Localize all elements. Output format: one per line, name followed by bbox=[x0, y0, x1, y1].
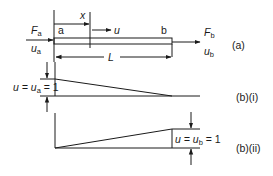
panel-b-ii: u = ub = 1 (b)(ii) bbox=[55, 112, 261, 165]
u-label: u bbox=[114, 24, 120, 36]
panel-b-i-tag: (b)(i) bbox=[236, 91, 258, 103]
panel-b-i: u = ua = 1 (b)(i) bbox=[13, 62, 258, 112]
force-a-label: Fa bbox=[31, 24, 42, 38]
value-label-b-ii: u = ub = 1 bbox=[175, 133, 221, 147]
panel-b-ii-tag: (b)(ii) bbox=[236, 142, 261, 154]
node-a-label: a bbox=[58, 24, 64, 36]
shape-function-b-line bbox=[55, 129, 172, 148]
panel-a-tag: (a) bbox=[232, 39, 245, 51]
node-b-label: b bbox=[161, 24, 167, 36]
disp-b-label: ub bbox=[204, 45, 214, 59]
length-label: L bbox=[108, 51, 114, 63]
shape-function-a-line bbox=[55, 79, 172, 96]
x-label: x bbox=[79, 9, 86, 21]
disp-a-label: ua bbox=[31, 42, 42, 56]
value-label-b-i: u = ua = 1 bbox=[13, 81, 59, 95]
panel-a: x u a b L Fa ua Fb ub (a) bbox=[26, 9, 245, 63]
bar-element bbox=[54, 38, 172, 44]
force-b-label: Fb bbox=[204, 26, 215, 40]
bar-element-shape-function-diagram: x u a b L Fa ua Fb ub (a) u = ua = 1 (b)… bbox=[0, 0, 273, 176]
